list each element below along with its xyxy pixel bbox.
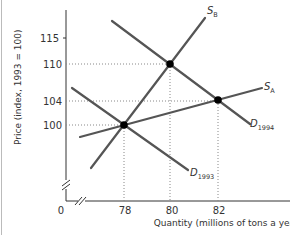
label-d1994-sub: 1994 xyxy=(258,124,275,132)
y-tick-label-110: 110 xyxy=(43,59,62,70)
point-78-100 xyxy=(120,121,128,129)
x-axis-label: Quantity (millions of tons a year) xyxy=(154,218,290,228)
label-d1993: D1993 xyxy=(190,167,214,181)
x-tick-label-78: 78 xyxy=(119,205,132,216)
point-80-110 xyxy=(166,60,174,68)
equilibrium-points xyxy=(120,60,222,129)
curve-sb xyxy=(91,18,205,168)
x-tick-label-0: 0 xyxy=(58,205,64,216)
curve-d1993 xyxy=(72,88,188,170)
x-axis-break-2 xyxy=(79,197,86,205)
y-tick-label-100: 100 xyxy=(43,120,62,131)
y-tick-label-104: 104 xyxy=(43,96,62,107)
guide-lines xyxy=(66,64,218,201)
supply-demand-chart: Price (index, 1993 = 100) 115 110 1 xyxy=(0,0,290,235)
curve-d1994 xyxy=(112,21,250,124)
axes xyxy=(62,10,290,205)
label-sa-sub: A xyxy=(270,87,275,95)
y-axis-label: Price (index, 1993 = 100) xyxy=(13,29,23,145)
label-d1994: D1994 xyxy=(250,118,274,132)
label-sb: SB xyxy=(207,5,218,19)
point-82-104 xyxy=(214,96,222,104)
x-tick-label-82: 82 xyxy=(213,205,226,216)
y-tick-label-115: 115 xyxy=(40,33,59,44)
x-tick-label-80: 80 xyxy=(166,205,179,216)
curves xyxy=(72,18,262,170)
label-sa: SA xyxy=(264,81,275,95)
label-sb-sub: B xyxy=(213,11,217,19)
label-d1993-sub: 1993 xyxy=(198,173,215,181)
